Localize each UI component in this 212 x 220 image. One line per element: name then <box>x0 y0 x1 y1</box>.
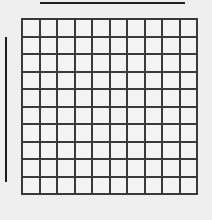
grid-cell <box>76 160 92 176</box>
grid-cell <box>41 73 57 89</box>
grid-cell <box>181 38 197 54</box>
grid-cell <box>76 20 92 36</box>
grid-cell <box>93 143 109 159</box>
grid-cell <box>128 20 144 36</box>
grid-cell <box>58 20 74 36</box>
grid-cell <box>76 108 92 124</box>
grid-cell <box>163 90 179 106</box>
grid-cell <box>41 143 57 159</box>
grid-cell <box>128 38 144 54</box>
grid-cell <box>93 20 109 36</box>
figure-canvas <box>0 0 212 220</box>
grid-cell <box>23 38 39 54</box>
grid-cell <box>23 108 39 124</box>
grid-cell <box>111 73 127 89</box>
grid-cell <box>181 20 197 36</box>
grid-cell <box>163 108 179 124</box>
grid-cell <box>146 20 162 36</box>
grid-cell <box>111 38 127 54</box>
grid-cell <box>146 55 162 71</box>
grid-cell <box>58 38 74 54</box>
grid-cell <box>58 178 74 194</box>
vertical-scale-bar <box>5 37 7 182</box>
grid-cell <box>111 55 127 71</box>
grid-lattice <box>21 18 198 195</box>
grid-cell <box>163 178 179 194</box>
grid-cell <box>163 38 179 54</box>
grid-cell <box>111 125 127 141</box>
grid-cell <box>128 143 144 159</box>
grid-cell <box>58 55 74 71</box>
grid-cell <box>111 108 127 124</box>
grid-cell <box>58 108 74 124</box>
grid-cell <box>146 73 162 89</box>
grid-cell <box>146 108 162 124</box>
grid-cell <box>128 73 144 89</box>
grid-cell <box>23 73 39 89</box>
grid-cell <box>41 178 57 194</box>
grid-cell <box>128 55 144 71</box>
grid-cell <box>41 38 57 54</box>
grid-cell <box>128 160 144 176</box>
grid-cell <box>58 73 74 89</box>
grid-cell <box>111 178 127 194</box>
grid-cell <box>93 55 109 71</box>
grid-cell <box>181 108 197 124</box>
grid-cell <box>128 125 144 141</box>
grid-cell <box>76 55 92 71</box>
grid-cell <box>146 125 162 141</box>
grid-cell <box>41 90 57 106</box>
grid-cell <box>76 38 92 54</box>
grid-cell <box>93 108 109 124</box>
grid-cell <box>23 143 39 159</box>
grid-cell <box>93 73 109 89</box>
grid-cell <box>76 143 92 159</box>
grid-cell <box>93 38 109 54</box>
grid-cell <box>41 125 57 141</box>
grid-cell <box>128 178 144 194</box>
grid-cell <box>58 143 74 159</box>
grid-cell <box>76 125 92 141</box>
grid-cell <box>163 125 179 141</box>
grid-cell <box>163 160 179 176</box>
grid-cell <box>128 108 144 124</box>
grid-cell <box>111 90 127 106</box>
grid-cell <box>181 90 197 106</box>
grid-cell <box>58 125 74 141</box>
grid-cell <box>93 125 109 141</box>
grid-cell <box>111 160 127 176</box>
grid-cell <box>181 160 197 176</box>
grid-cell <box>58 160 74 176</box>
grid-cell <box>146 38 162 54</box>
grid-cell <box>23 90 39 106</box>
grid-cell <box>41 55 57 71</box>
grid-cell <box>41 160 57 176</box>
grid-cell <box>146 178 162 194</box>
grid-cell <box>181 73 197 89</box>
grid-cell <box>23 160 39 176</box>
grid-cell <box>23 178 39 194</box>
grid-cell <box>93 160 109 176</box>
grid-cell <box>23 20 39 36</box>
grid-cell <box>163 20 179 36</box>
grid-cell <box>41 20 57 36</box>
grid-cell <box>163 55 179 71</box>
grid-cell <box>146 90 162 106</box>
grid-cell <box>93 90 109 106</box>
grid-cell <box>181 125 197 141</box>
grid-cell <box>146 143 162 159</box>
grid-cell <box>128 90 144 106</box>
grid-cell <box>111 143 127 159</box>
grid-cell <box>76 178 92 194</box>
grid-cell <box>163 73 179 89</box>
grid-cell <box>58 90 74 106</box>
grid-cell <box>23 55 39 71</box>
grid-cell <box>76 90 92 106</box>
grid-cell <box>163 143 179 159</box>
grid-cell <box>23 125 39 141</box>
grid-cell <box>181 55 197 71</box>
grid-cell <box>181 143 197 159</box>
grid-cell <box>146 160 162 176</box>
grid-cell <box>111 20 127 36</box>
grid-cell <box>181 178 197 194</box>
